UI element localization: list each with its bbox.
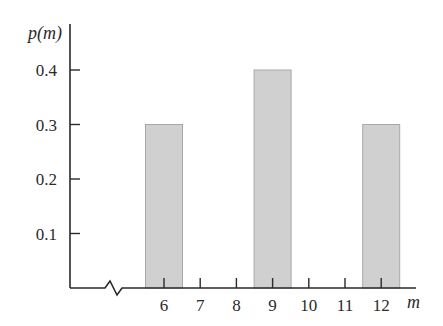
bar-m-9 bbox=[254, 70, 291, 288]
labels-group: 0.10.20.30.46789101112p(m)m bbox=[26, 23, 420, 315]
probability-bar-chart: 0.10.20.30.46789101112p(m)m bbox=[0, 0, 443, 326]
y-tick-label: 0.4 bbox=[36, 61, 58, 80]
x-axis-title: m bbox=[407, 292, 420, 312]
y-tick-label: 0.1 bbox=[36, 225, 57, 244]
x-tick-label: 7 bbox=[196, 296, 205, 315]
y-tick-label: 0.2 bbox=[36, 170, 57, 189]
bar-m-6 bbox=[146, 125, 183, 289]
y-axis-title: p(m) bbox=[26, 23, 62, 44]
x-tick-label: 8 bbox=[232, 296, 241, 315]
x-tick-label: 11 bbox=[337, 296, 353, 315]
bars-group bbox=[146, 70, 400, 288]
x-tick-label: 6 bbox=[160, 296, 169, 315]
bar-m-12 bbox=[363, 125, 400, 289]
y-tick-label: 0.3 bbox=[36, 116, 57, 135]
x-tick-label: 10 bbox=[300, 296, 317, 315]
x-tick-label: 12 bbox=[373, 296, 390, 315]
x-tick-label: 9 bbox=[268, 296, 277, 315]
